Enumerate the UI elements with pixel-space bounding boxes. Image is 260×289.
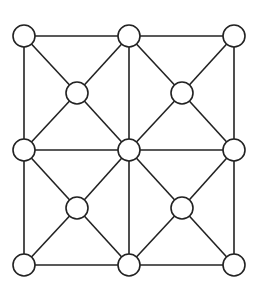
node-n9 [66, 197, 88, 219]
graph-diagram [0, 0, 260, 289]
node-n10 [171, 197, 193, 219]
node-n6 [13, 139, 35, 161]
node-n11 [13, 254, 35, 276]
node-n12 [118, 254, 140, 276]
node-n4 [66, 82, 88, 104]
node-n7 [118, 139, 140, 161]
node-n3 [223, 25, 245, 47]
node-n8 [223, 139, 245, 161]
node-n1 [13, 25, 35, 47]
node-n5 [171, 82, 193, 104]
node-n2 [118, 25, 140, 47]
node-n13 [223, 254, 245, 276]
